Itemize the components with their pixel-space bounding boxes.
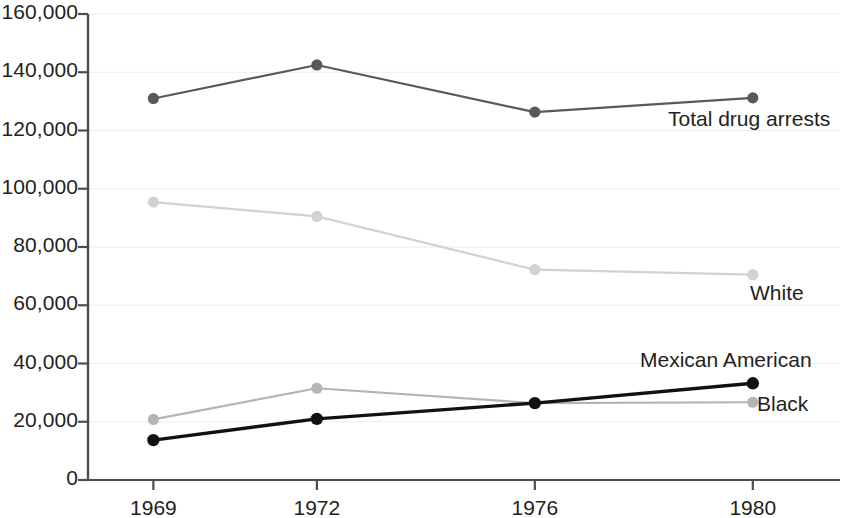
x-axis-tick-label: 1969 (130, 496, 177, 518)
series-black (148, 383, 759, 425)
y-axis-tick-label: 80,000 (13, 233, 78, 257)
y-axis-tick-label: 140,000 (1, 58, 78, 82)
data-point-marker (311, 211, 322, 222)
data-point-marker (747, 377, 759, 389)
data-point-marker (147, 434, 159, 446)
data-point-marker (311, 413, 323, 425)
data-point-marker (311, 59, 322, 70)
series-line (153, 383, 752, 440)
x-axis-ticks (153, 480, 752, 490)
data-point-marker (148, 93, 159, 104)
series-label-mexican-american: Mexican American (640, 348, 812, 372)
series-line (153, 202, 752, 275)
y-axis-ticks (78, 14, 88, 480)
data-point-marker (311, 383, 322, 394)
data-point-marker (148, 414, 159, 425)
y-axis-tick-label: 20,000 (13, 408, 78, 432)
series-label-black: Black (757, 392, 808, 416)
data-point-marker (148, 197, 159, 208)
y-axis-tick-label: 60,000 (13, 291, 78, 315)
series-label-white: White (750, 281, 804, 305)
data-point-marker (747, 269, 758, 280)
x-axis-tick-label: 1976 (511, 496, 558, 518)
y-axis-tick-label: 40,000 (13, 350, 78, 374)
series-mexican-american (147, 377, 759, 446)
data-point-marker (529, 397, 541, 409)
y-axis-tick-label: 120,000 (1, 117, 78, 141)
data-point-marker (747, 92, 758, 103)
line-chart: 020,00040,00060,00080,000100,000120,0001… (0, 0, 845, 518)
chart-plot-area (0, 0, 845, 518)
y-axis-tick-label: 160,000 (1, 0, 78, 24)
y-axis-tick-label: 0 (66, 466, 78, 490)
data-point-marker (529, 264, 540, 275)
data-point-marker (529, 107, 540, 118)
series-total-drug-arrests (148, 59, 759, 117)
y-axis-tick-label: 100,000 (1, 175, 78, 199)
x-axis-tick-label: 1980 (729, 496, 776, 518)
series-white (148, 197, 759, 281)
x-axis-tick-label: 1972 (294, 496, 341, 518)
series-label-total: Total drug arrests (668, 107, 830, 131)
